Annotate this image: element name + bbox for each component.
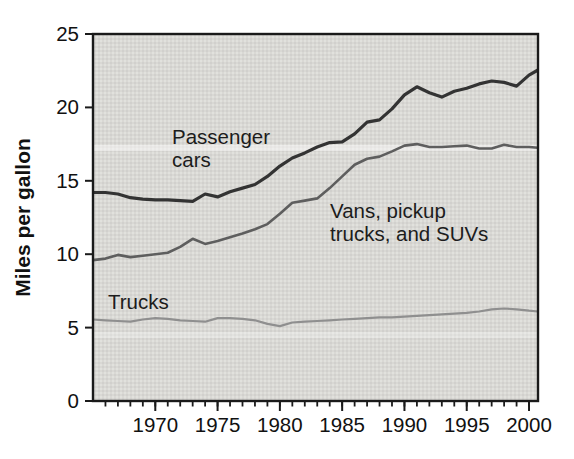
x-axis-tick-label: 2000	[506, 413, 552, 436]
y-axis-tick-label: 10	[56, 242, 79, 265]
x-axis-tick-label: 1975	[195, 413, 241, 436]
y-axis-title: Miles per gallon	[11, 138, 34, 297]
mpg-line-chart: 05101520251970197519801985199019952000Mi…	[0, 0, 574, 459]
trucks-label: Trucks	[108, 290, 169, 313]
plot-area	[93, 34, 538, 401]
x-axis-tick-label: 1990	[382, 413, 428, 436]
fuel-economy-figure: 05101520251970197519801985199019952000Mi…	[0, 0, 574, 459]
y-axis-tick-label: 5	[68, 316, 79, 339]
y-axis-tick-label: 25	[56, 22, 79, 45]
y-axis-tick-label: 15	[56, 169, 79, 192]
x-axis-tick-label: 1985	[319, 413, 365, 436]
scan-light-band	[93, 332, 538, 338]
x-axis-tick-label: 1980	[257, 413, 303, 436]
x-axis-tick-label: 1995	[444, 413, 490, 436]
y-axis-tick-label: 20	[56, 95, 79, 118]
y-axis-tick-label: 0	[68, 389, 79, 412]
x-axis-tick-label: 1970	[132, 413, 178, 436]
